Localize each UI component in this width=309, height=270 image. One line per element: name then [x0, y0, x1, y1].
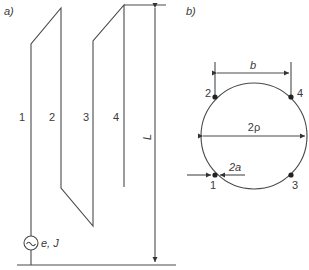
spacing-label: b — [250, 59, 256, 71]
folded-wire — [31, 5, 124, 236]
wire-point-1 — [212, 172, 217, 177]
wire-point-4 — [288, 94, 293, 99]
panel-b-label: b) — [186, 5, 196, 17]
antenna-diagram: a) L e, J 1 2 3 4 b) b — [0, 0, 309, 270]
point-label-4: 4 — [297, 87, 303, 99]
point-label-2: 2 — [205, 87, 211, 99]
ac-source-icon — [24, 236, 38, 250]
wire-label-2: 2 — [49, 111, 55, 123]
point-label-3: 3 — [292, 179, 298, 191]
point-label-1: 1 — [210, 179, 216, 191]
panel-a-label: a) — [4, 5, 14, 17]
source-label: e, J — [41, 237, 59, 249]
wire-point-3 — [288, 172, 293, 177]
panel-b: b) b 2ρ 2a 2 4 1 3 — [186, 5, 307, 191]
wire-label-1: 1 — [19, 111, 25, 123]
length-label: L — [141, 134, 153, 140]
wire-label-3: 3 — [83, 111, 89, 123]
panel-a: a) L e, J 1 2 3 4 — [4, 5, 176, 265]
wire-diameter-label: 2a — [228, 161, 241, 173]
wire-label-4: 4 — [113, 111, 119, 123]
wire-point-2 — [212, 94, 217, 99]
diameter-label: 2ρ — [248, 121, 260, 133]
